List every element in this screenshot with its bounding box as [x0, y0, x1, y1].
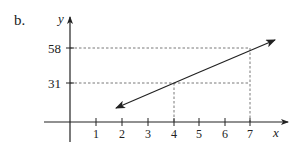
dashed-guides [70, 48, 250, 122]
y-tick-labels: 58 31 [48, 41, 61, 91]
problem-label: b. [14, 12, 25, 28]
svg-text:2: 2 [119, 127, 125, 141]
coordinate-plane: b. y x 1 2 3 4 5 6 7 58 31 [0, 0, 301, 142]
x-tick-labels: 1 2 3 4 5 6 7 [93, 127, 253, 141]
x-axis-label: x [272, 125, 279, 140]
y-tick-58: 58 [48, 41, 61, 56]
y-tick-31: 31 [48, 76, 61, 91]
graph-line-lower [116, 74, 195, 108]
svg-text:4: 4 [171, 127, 177, 141]
svg-text:6: 6 [222, 127, 228, 141]
svg-text:7: 7 [247, 127, 253, 141]
svg-text:3: 3 [145, 127, 151, 141]
y-axis-label: y [56, 11, 64, 26]
svg-text:1: 1 [93, 127, 99, 141]
graph-line [195, 40, 275, 74]
svg-text:5: 5 [196, 127, 202, 141]
